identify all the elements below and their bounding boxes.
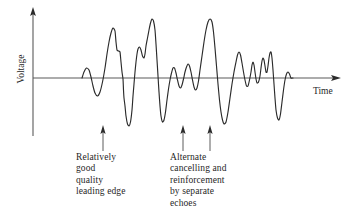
y-axis-label: Voltage	[16, 39, 26, 99]
waveform-figure: Voltage Time Relatively good quality lea…	[0, 0, 353, 222]
annotation-caption-echoes: Alternate cancelling and reinforcement b…	[170, 152, 227, 209]
annotation-caption-leading-edge: Relatively good quality leading edge	[76, 152, 125, 198]
x-axis-label: Time	[313, 86, 333, 96]
